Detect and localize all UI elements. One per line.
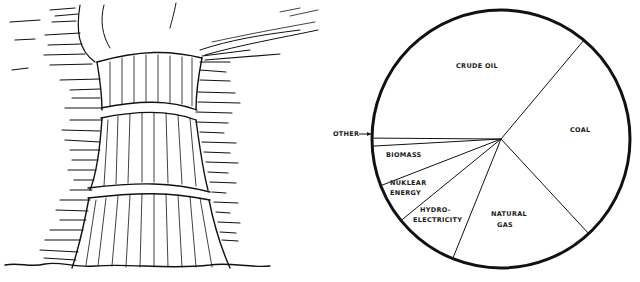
slice-divider — [501, 41, 583, 139]
label-natural-gas-line1: NATURAL — [491, 210, 527, 218]
label-biomass: BIOMASS — [386, 151, 422, 159]
slice-divider — [373, 138, 501, 139]
label-other: OTHER — [333, 130, 359, 138]
label-nuclear-line2: ENERGY — [390, 189, 421, 197]
slice-divider — [501, 139, 588, 233]
other-callout — [359, 132, 371, 136]
label-crude-oil: CRUDE OIL — [456, 62, 498, 70]
slice-divider — [453, 139, 501, 258]
cooling-tower-illustration — [0, 0, 320, 282]
energy-sources-pie-chart: CRUDE OIL COAL NATURAL GAS HYDRO- ELECTR… — [320, 0, 640, 282]
label-natural-gas-line2: GAS — [497, 221, 513, 229]
label-hydro-line1: HYDRO- — [420, 206, 451, 214]
label-hydro-line2: ELECTRICITY — [413, 216, 462, 224]
label-coal: COAL — [570, 126, 591, 134]
label-nuclear-line1: NUKLEAR — [390, 179, 426, 187]
slice-divider — [373, 139, 501, 146]
